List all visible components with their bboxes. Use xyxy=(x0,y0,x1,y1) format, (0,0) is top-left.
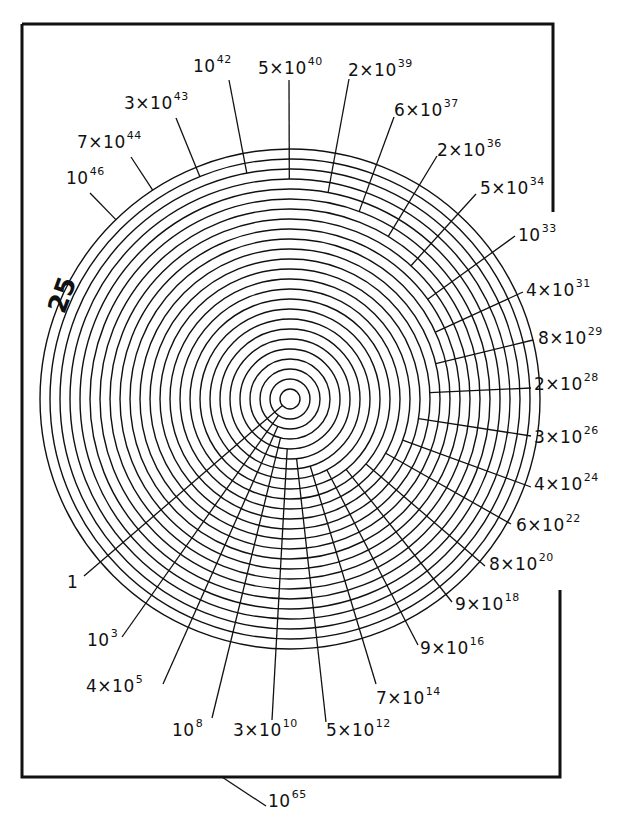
ring-label-base: 10 xyxy=(66,168,89,188)
ring-label: 6×1037 xyxy=(394,102,459,119)
ring-label: 2×1028 xyxy=(534,376,599,393)
ring-label: 1046 xyxy=(66,170,105,187)
ring-label-base: 10 xyxy=(284,58,307,78)
leader-line xyxy=(386,453,511,524)
ring-label: 3×1026 xyxy=(534,429,599,446)
ring-label-mantissa: 9× xyxy=(420,638,446,658)
ring-label: 1 xyxy=(67,574,78,591)
ring xyxy=(220,329,360,469)
ring-label-base: 10 xyxy=(542,515,565,535)
leader-line xyxy=(90,193,116,220)
ring-label-mantissa: 3× xyxy=(233,720,259,740)
ring-label: 8×1020 xyxy=(489,556,554,573)
ring-label-base: 10 xyxy=(87,630,110,650)
ring xyxy=(60,169,520,629)
ring-label-exponent: 36 xyxy=(487,137,502,150)
ring-label-exponent: 3 xyxy=(111,627,119,640)
ring-label: 103 xyxy=(87,632,118,649)
ring-label: 4×1031 xyxy=(526,282,591,299)
ring xyxy=(40,149,540,649)
ring-label-mantissa: 4× xyxy=(534,474,560,494)
ring xyxy=(70,179,510,619)
leader-line xyxy=(403,440,531,487)
ring-label-base: 10 xyxy=(259,720,282,740)
ring xyxy=(270,379,310,419)
ring xyxy=(160,269,420,529)
ring xyxy=(280,389,300,409)
ring-label-mantissa: 5× xyxy=(326,720,352,740)
ring-label-exponent: 39 xyxy=(398,57,413,70)
ring-label-base: 10 xyxy=(481,594,504,614)
leader-line xyxy=(297,459,326,722)
ring-label-base: 10 xyxy=(402,688,425,708)
ring-label: 5×1012 xyxy=(326,722,391,739)
ring xyxy=(140,249,440,549)
ring-label-base: 10 xyxy=(150,93,173,113)
ring-label-base: 10 xyxy=(560,474,583,494)
leader-line xyxy=(131,157,153,190)
ring-label-base: 1 xyxy=(67,572,78,592)
ring-label-base: 10 xyxy=(193,56,216,76)
leader-line xyxy=(388,156,437,236)
ring-label-base: 10 xyxy=(112,676,135,696)
ring-label-mantissa: 8× xyxy=(489,554,515,574)
ring-label-base: 10 xyxy=(515,554,538,574)
ring-label-base: 10 xyxy=(103,132,126,152)
ring xyxy=(120,229,460,569)
ring-label: 8×1029 xyxy=(538,330,603,347)
ring-label-mantissa: 3× xyxy=(534,427,560,447)
ring-label-mantissa: 4× xyxy=(86,676,112,696)
ring-label-exponent: 29 xyxy=(588,325,603,338)
ring xyxy=(170,279,410,519)
ring-label-base: 10 xyxy=(463,140,486,160)
leader-line xyxy=(272,449,287,720)
ring-label-exponent: 14 xyxy=(426,685,441,698)
ring-label-exponent: 20 xyxy=(539,551,554,564)
ring-label-exponent: 28 xyxy=(584,371,599,384)
ring-label-base: 10 xyxy=(352,720,375,740)
concentric-rings-diagram xyxy=(0,0,633,831)
ring-label-exponent: 8 xyxy=(196,717,204,730)
ring-label-mantissa: 4× xyxy=(526,280,552,300)
ring-label-exponent: 24 xyxy=(584,471,599,484)
ring xyxy=(110,219,470,579)
ring-label-mantissa: 6× xyxy=(394,100,420,120)
ring xyxy=(240,349,340,449)
ring-label-mantissa: 3× xyxy=(124,93,150,113)
ring xyxy=(230,339,350,459)
ring xyxy=(260,369,320,429)
ring-label-base: 10 xyxy=(560,427,583,447)
ring-label-exponent: 37 xyxy=(444,97,459,110)
ring-label-exponent: 12 xyxy=(376,717,391,730)
leader-line xyxy=(366,464,485,566)
ring-label-exponent: 46 xyxy=(90,165,105,178)
ring-label-base: 10 xyxy=(446,638,469,658)
ring-label-exponent: 26 xyxy=(584,424,599,437)
ring xyxy=(100,209,480,589)
ring xyxy=(130,239,450,559)
ring-label: 4×105 xyxy=(86,678,143,695)
ring-label-exponent: 10 xyxy=(283,717,298,730)
frame-label-exp: 65 xyxy=(292,788,307,801)
ring-label-mantissa: 7× xyxy=(77,132,103,152)
ring-label-base: 10 xyxy=(552,280,575,300)
leader-line xyxy=(122,415,279,637)
ring-label: 5×1040 xyxy=(258,60,323,77)
ring-label: 9×1016 xyxy=(420,640,485,657)
ring-label: 7×1014 xyxy=(376,690,441,707)
ring-label: 2×1036 xyxy=(437,142,502,159)
ring xyxy=(250,359,330,439)
ring-label: 5×1034 xyxy=(480,180,545,197)
ring-label-exponent: 18 xyxy=(505,591,520,604)
ring-label-mantissa: 2× xyxy=(534,374,560,394)
ring-label-mantissa: 7× xyxy=(376,688,402,708)
ring xyxy=(180,289,400,509)
frame-label: 1065 xyxy=(268,793,307,810)
diagram-canvas: 25 1065 11034×1051083×10105×10127×10149×… xyxy=(0,0,633,831)
rings-group xyxy=(40,149,540,649)
leader-line xyxy=(176,118,200,177)
ring xyxy=(80,189,500,609)
ring-label: 3×1010 xyxy=(233,722,298,739)
leader-line xyxy=(435,292,523,332)
ring-label-mantissa: 5× xyxy=(258,58,284,78)
